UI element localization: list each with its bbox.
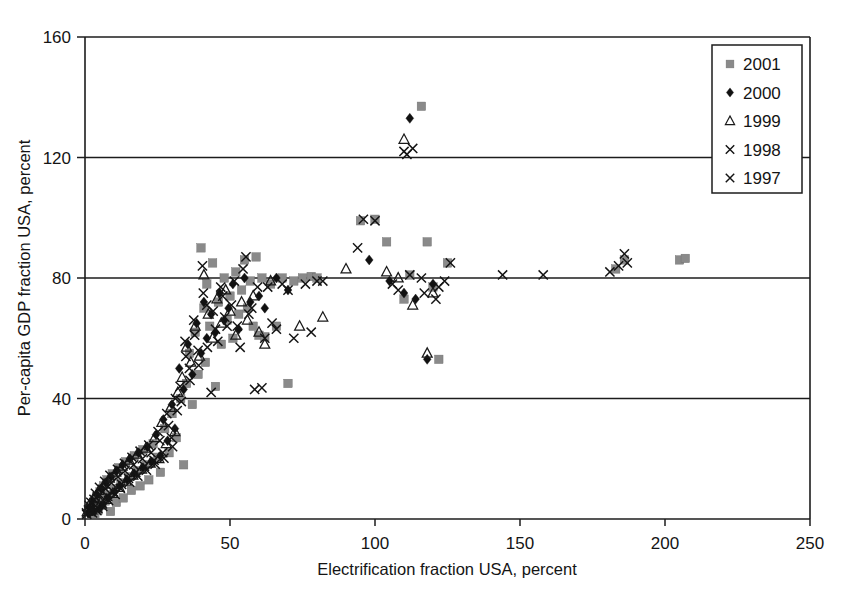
legend-label-1997: 1997 xyxy=(743,169,781,188)
marker-square xyxy=(188,400,197,409)
marker-square xyxy=(136,482,145,491)
marker-square xyxy=(382,238,391,247)
legend-label-2000: 2000 xyxy=(743,84,781,103)
marker-square xyxy=(208,259,217,268)
xtick-label-150: 150 xyxy=(506,534,534,553)
ytick-label-0: 0 xyxy=(62,510,71,529)
marker-square xyxy=(220,274,229,283)
marker-x xyxy=(307,328,316,337)
marker-diamond xyxy=(406,113,414,123)
marker-diamond xyxy=(365,255,373,265)
marker-square xyxy=(258,274,267,283)
marker-x xyxy=(185,364,194,373)
marker-square xyxy=(356,217,365,226)
marker-square-legend xyxy=(726,60,734,68)
xtick-label-200: 200 xyxy=(651,534,679,553)
marker-triangle xyxy=(318,312,328,321)
marker-x xyxy=(203,343,212,352)
marker-square xyxy=(211,382,220,391)
plot-svg: 04080120160050100150200250 2001200019991… xyxy=(0,0,844,599)
xtick-label-50: 50 xyxy=(221,534,240,553)
marker-x xyxy=(147,448,156,457)
marker-x xyxy=(236,343,245,352)
marker-square xyxy=(234,310,243,319)
legend-label-1998: 1998 xyxy=(743,141,781,160)
marker-triangle xyxy=(341,264,351,273)
marker-triangle xyxy=(295,321,305,330)
marker-square xyxy=(252,253,261,262)
xtick-label-250: 250 xyxy=(796,534,824,553)
marker-square xyxy=(435,355,444,364)
marker-x xyxy=(289,334,298,343)
marker-square xyxy=(240,256,249,264)
marker-diamond xyxy=(261,303,269,313)
series-2001 xyxy=(85,102,689,518)
marker-x xyxy=(257,383,266,392)
marker-square xyxy=(371,215,380,224)
marker-square xyxy=(249,322,258,331)
ytick-label-80: 80 xyxy=(52,269,71,288)
marker-x xyxy=(253,282,262,291)
marker-triangle xyxy=(382,267,392,276)
scatter-chart-figure: 04080120160050100150200250 2001200019991… xyxy=(0,0,844,599)
marker-x xyxy=(353,243,362,252)
marker-diamond xyxy=(423,354,431,364)
xtick-label-100: 100 xyxy=(361,534,389,553)
marker-square xyxy=(197,244,206,253)
marker-x xyxy=(420,288,429,297)
legend[interactable]: 20012000199919981997 xyxy=(712,45,802,193)
marker-square xyxy=(106,507,115,516)
marker-square xyxy=(417,102,426,111)
marker-square xyxy=(127,486,135,495)
ytick-label-160: 160 xyxy=(43,28,71,47)
xtick-label-0: 0 xyxy=(80,534,89,553)
ytick-label-120: 120 xyxy=(43,149,71,168)
legend-label-2001: 2001 xyxy=(743,55,781,74)
legend-label-1999: 1999 xyxy=(743,112,781,131)
x-axis-title: Electrification fraction USA, percent xyxy=(317,560,577,578)
data-points-layer xyxy=(82,102,690,519)
marker-square xyxy=(423,238,432,247)
marker-x xyxy=(199,288,208,297)
ytick-label-40: 40 xyxy=(52,390,71,409)
y-axis-title: Per-capita GDP fraction USA, percent xyxy=(15,139,33,416)
marker-x xyxy=(198,261,207,270)
series-1999 xyxy=(82,134,438,515)
marker-square xyxy=(156,468,165,477)
marker-square xyxy=(237,286,246,295)
marker-square xyxy=(145,476,154,485)
marker-square xyxy=(681,254,690,263)
marker-square xyxy=(290,277,299,286)
marker-square xyxy=(119,494,128,503)
marker-square xyxy=(179,461,188,470)
marker-square xyxy=(284,379,293,388)
marker-square xyxy=(203,280,212,289)
marker-triangle xyxy=(399,134,409,143)
marker-x xyxy=(431,294,440,303)
marker-square xyxy=(232,268,241,277)
